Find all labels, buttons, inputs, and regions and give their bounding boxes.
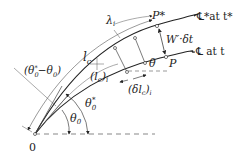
lci-label: (lc)i [90, 70, 108, 84]
lambda-label: λi [105, 14, 115, 28]
theta0-arc [62, 110, 69, 134]
displacement-arrow [159, 29, 165, 54]
dlc-arrow [133, 75, 146, 79]
curve-outer-label: ℄*at t* [196, 10, 233, 22]
angle-diff-label: (θ0*−θ0) [24, 64, 61, 79]
dlc-label: (δlc)i [128, 83, 152, 97]
theta0-label: θ0 [70, 112, 82, 126]
lambda-ext [114, 30, 120, 38]
curve-inner-label: ℄ at t [195, 45, 225, 57]
origin-point [34, 133, 37, 136]
origin-label: 0 [29, 141, 36, 154]
point-p-label: P [168, 57, 177, 70]
theta0star-label: θ0* [85, 96, 97, 112]
element-line-2 [135, 38, 145, 63]
centerline-diagram: 0 P* P ℄*at t* ℄ at t W′·δt λi lc (lc)i … [0, 0, 243, 157]
element-line-1 [115, 48, 127, 72]
point-p-star-label: P* [151, 9, 165, 22]
theta-label: θ [149, 57, 156, 70]
displacement-label: W′·δt [166, 33, 194, 45]
point-p-star [155, 24, 158, 27]
point-p [164, 55, 167, 58]
